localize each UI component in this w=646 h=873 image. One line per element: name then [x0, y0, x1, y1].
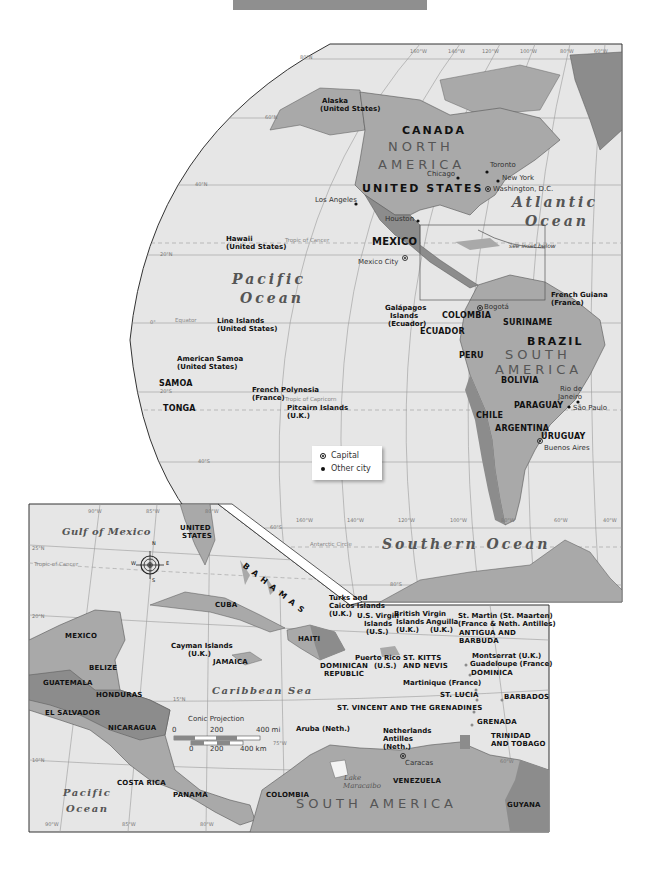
lat-label: 40°S: [198, 459, 210, 464]
territory-label: (U.K.): [430, 627, 453, 634]
country-label: GRENADA: [477, 719, 517, 726]
territory-label: (U.S.): [366, 629, 388, 636]
lat-label: 40°N: [195, 182, 208, 187]
country-label: URUGUAY: [541, 433, 586, 441]
city-label: Bogotá: [484, 304, 509, 311]
scale-label: 0: [172, 727, 176, 734]
scale-label: 200: [210, 727, 223, 734]
lat-label: 15°N: [173, 697, 186, 702]
lat-label: 60°S: [270, 525, 282, 530]
continent-label: SOUTH: [505, 348, 571, 362]
ocean-label-atlantic: Atlantic: [512, 195, 598, 210]
tropic-of-cancer-label: Tropic of Cancer: [285, 238, 329, 244]
projection-label: Conic Projection: [188, 716, 244, 723]
lon-label: 80°W: [501, 518, 515, 523]
lat-label: 25°N: [32, 546, 45, 551]
country-label: HAITI: [298, 636, 320, 643]
compass-n: N: [152, 541, 156, 546]
country-label: BARBUDA: [459, 638, 499, 645]
equator-label: Equator: [175, 318, 197, 324]
city-label: Los Angeles: [315, 197, 357, 204]
country-label: HONDURAS: [96, 692, 143, 699]
country-label: UNITED STATES: [362, 183, 483, 195]
country-label: EL SALVADOR: [45, 710, 100, 717]
legend-capital: Capital: [320, 451, 359, 460]
country-label: PARAGUAY: [514, 402, 563, 410]
territory-label: Aruba (Neth.): [296, 726, 350, 733]
territory-label: (United States): [217, 326, 277, 333]
lon-label: 140°W: [347, 518, 364, 523]
territory-label: (Neth.): [383, 744, 411, 751]
country-label: BELIZE: [89, 665, 117, 672]
lake-label: Maracaibo: [343, 783, 381, 790]
lat-label: 20°N: [160, 252, 173, 257]
country-label: PANAMA: [173, 792, 208, 799]
country-label: GUYANA: [507, 802, 541, 809]
lat-label: 20°S: [160, 389, 172, 394]
territory-label: (U.K.): [287, 413, 310, 420]
ocean-label-pacific: Ocean: [66, 804, 108, 815]
continent-label: AMERICA: [495, 363, 582, 377]
lon-label: 120°W: [398, 518, 415, 523]
country-label: AND NEVIS: [403, 663, 448, 670]
continent-label: SOUTH AMERICA: [296, 797, 457, 811]
lon-label: 60°W: [554, 518, 568, 523]
country-label: ST. VINCENT AND THE GRENADINES: [337, 705, 482, 712]
territory-label: (France): [551, 300, 584, 307]
lon-label: 60°W: [594, 49, 608, 54]
lon-label: 100°W: [450, 518, 467, 523]
country-label: BARBADOS: [504, 694, 549, 701]
inset-note: see inset below: [509, 243, 556, 249]
country-label: TONGA: [163, 405, 196, 413]
lon-label: 80°W: [560, 49, 574, 54]
country-label: ST. LUCIA: [440, 692, 479, 699]
country-label: ECUADOR: [420, 328, 465, 336]
city-dot-icon: [321, 467, 325, 471]
country-label: COLOMBIA: [266, 792, 309, 799]
country-label: JAMAICA: [213, 659, 248, 666]
country-label: CHILE: [476, 412, 503, 420]
territory-label: (United States): [320, 106, 380, 113]
ocean-label-pacific: Ocean: [240, 291, 304, 306]
lon-label: 40°W: [603, 518, 617, 523]
country-label: COLOMBIA: [442, 312, 491, 320]
lon-label: 90°W: [45, 822, 59, 827]
city-label: Buenos Aires: [544, 445, 590, 452]
country-label: MEXICO: [372, 237, 417, 248]
country-label: AND TOBAGO: [491, 741, 546, 748]
city-label: Caracas: [405, 760, 433, 767]
lon-label: 90°W: [88, 509, 102, 514]
country-label: DOMINICA: [471, 670, 513, 677]
ocean-label-caribbean: Caribbean Sea: [212, 686, 313, 697]
city-label: Houston: [385, 216, 414, 223]
country-label: MEXICO: [65, 633, 97, 640]
territory-label: (U.K.): [329, 611, 352, 618]
lon-label: 140°W: [448, 49, 465, 54]
country-label: SAMOA: [159, 380, 193, 388]
lat-label: 80°N: [300, 55, 313, 60]
city-label: Mexico City: [358, 259, 398, 266]
city-label: Janeiro: [558, 394, 582, 401]
ocean-label-atlantic: Ocean: [525, 214, 589, 229]
city-label: Washington, D.C.: [493, 186, 553, 193]
scale-label: 0: [189, 746, 193, 753]
country-label: GUATEMALA: [43, 680, 93, 687]
ocean-label-southern: Southern Ocean: [382, 537, 551, 552]
lon-label: 85°W: [122, 822, 136, 827]
lat-label: 80°S: [390, 582, 402, 587]
lon-label: 160°W: [296, 518, 313, 523]
territory-label: (Ecuador): [388, 321, 426, 328]
territory-label: (U.S.): [374, 663, 396, 670]
lon-label: 80°W: [205, 509, 219, 514]
scale-label: 400 mi: [256, 727, 280, 734]
legend-other-city: Other city: [320, 464, 371, 473]
city-label: Chicago: [427, 171, 455, 178]
territory-label: (U.K.): [396, 627, 419, 634]
tropic-of-capricorn-label: Tropic of Capricorn: [285, 397, 336, 403]
scale-label: 400 km: [240, 746, 266, 753]
country-label: BRAZIL: [527, 336, 583, 348]
territory-label: (U.K.): [188, 651, 211, 658]
legend-capital-label: Capital: [331, 451, 359, 460]
lat-label: 20°N: [32, 614, 45, 619]
legend-other-city-label: Other city: [331, 464, 371, 473]
